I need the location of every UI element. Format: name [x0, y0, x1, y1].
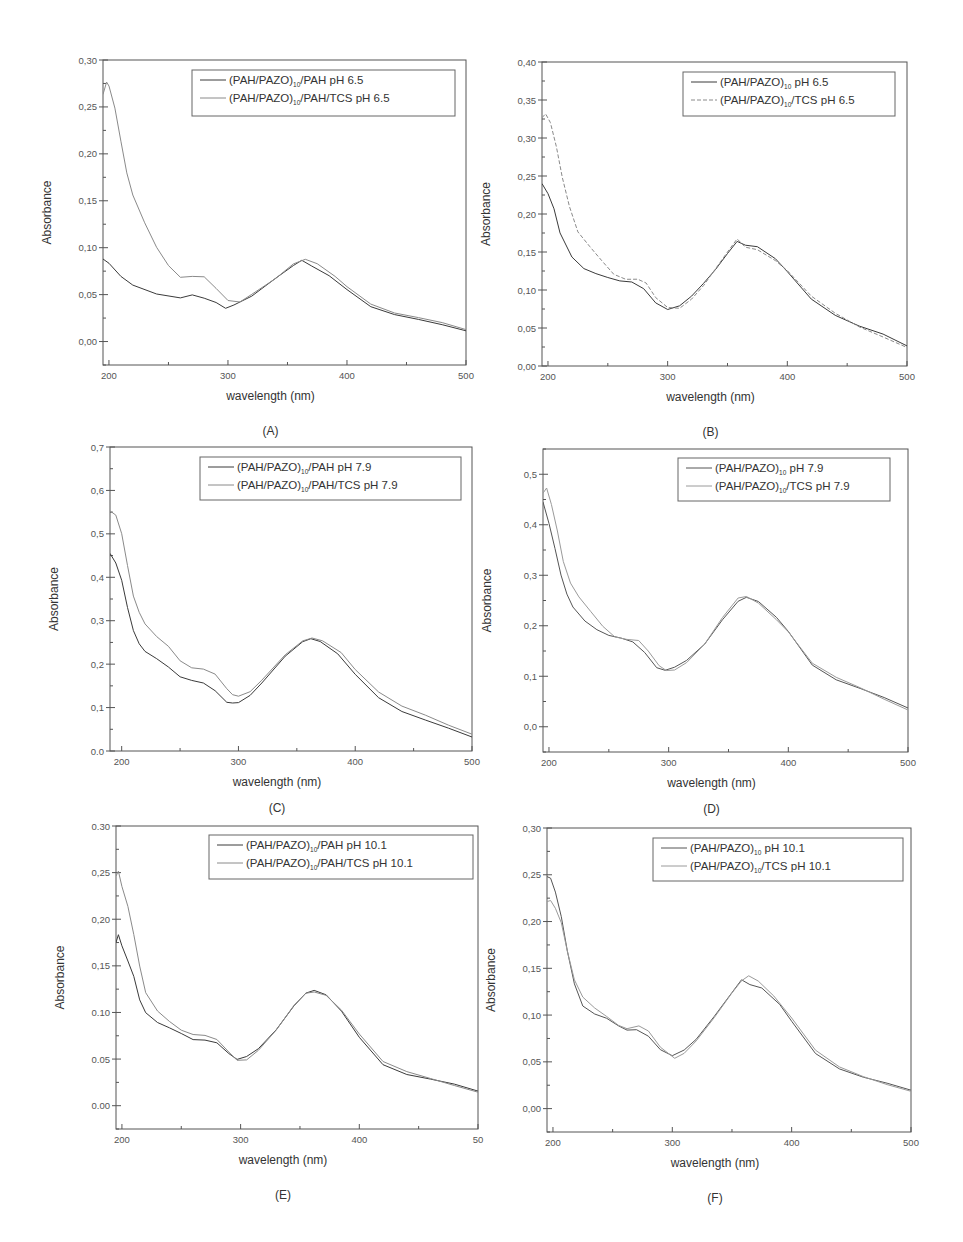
y-tick-label: 0,05 [523, 1056, 542, 1067]
y-tick-label: 0,15 [523, 963, 542, 974]
legend-label: (PAH/PAZO)10 pH 10.1 [690, 842, 805, 856]
x-tick-label: 500 [903, 1137, 919, 1148]
legend-label: (PAH/PAZO)10/TCS pH 10.1 [690, 860, 831, 874]
x-tick-label: 300 [664, 1137, 680, 1148]
x-tick-label: 200 [545, 1137, 561, 1148]
y-tick-label: 0,25 [523, 869, 542, 880]
x-axis-title: wavelength (nm) [670, 1156, 760, 1170]
legend: (PAH/PAZO)10 pH 10.1(PAH/PAZO)10/TCS pH … [653, 838, 903, 881]
chart-f: 2003004005000,000,050,100,150,200,250,30… [0, 0, 963, 1242]
panel-caption-f: (F) [707, 1191, 722, 1205]
chart-panel-f: 2003004005000,000,050,100,150,200,250,30… [0, 0, 963, 1242]
x-tick-label: 400 [784, 1137, 800, 1148]
y-tick-label: 0,10 [523, 1010, 542, 1021]
y-tick-label: 0,30 [523, 823, 542, 834]
y-axis-title: Absorbance [484, 948, 498, 1012]
y-tick-label: 0,00 [523, 1103, 542, 1114]
series-line-1 [547, 877, 911, 1091]
y-tick-label: 0,20 [523, 916, 542, 927]
